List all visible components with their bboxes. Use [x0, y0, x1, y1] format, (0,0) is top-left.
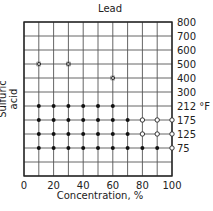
open-circle-marker [170, 118, 174, 122]
open-circle-marker [155, 118, 159, 122]
filled-circle-marker [96, 146, 100, 150]
filled-circle-marker [81, 146, 85, 150]
filled-circle-marker [96, 132, 100, 136]
filled-circle-marker [126, 132, 130, 136]
y-tick-label: 400 [177, 73, 196, 84]
filled-circle-marker [81, 104, 85, 108]
filled-circle-marker [37, 104, 41, 108]
filled-circle-marker [37, 132, 41, 136]
y-tick-label: 700 [177, 31, 196, 42]
x-tick-label: 0 [21, 180, 27, 191]
filled-circle-marker [81, 132, 85, 136]
y-tick-label: 125 [177, 129, 196, 140]
filled-circle-marker [140, 146, 144, 150]
open-circle-marker [140, 118, 144, 122]
open-circle-marker [155, 132, 159, 136]
filled-circle-marker [66, 104, 70, 108]
y-tick-label: 300 [177, 87, 196, 98]
cross-marker [36, 62, 41, 67]
filled-circle-marker [155, 146, 159, 150]
grid [24, 22, 172, 176]
cross-marker [66, 62, 71, 67]
cross-marker [110, 76, 115, 81]
filled-circle-marker [96, 104, 100, 108]
y-tick-label: 500 [177, 59, 196, 70]
filled-circle-marker [37, 146, 41, 150]
filled-circle-marker [111, 104, 115, 108]
open-circle-marker [170, 132, 174, 136]
y-tick-label: 175 [177, 115, 196, 126]
filled-circle-marker [111, 132, 115, 136]
y-tick-label: 600 [177, 45, 196, 56]
x-tick-label: 100 [162, 180, 181, 191]
filled-circle-marker [111, 118, 115, 122]
x-tick-label: 80 [136, 180, 149, 191]
filled-circle-marker [66, 132, 70, 136]
open-circle-marker [140, 132, 144, 136]
filled-circle-marker [111, 146, 115, 150]
filled-circle-marker [52, 118, 56, 122]
filled-circle-marker [52, 104, 56, 108]
y-tick-label: 212 °F [177, 101, 210, 112]
filled-circle-marker [126, 118, 130, 122]
x-tick-label: 20 [47, 180, 60, 191]
filled-circle-marker [81, 118, 85, 122]
y-tick-label: 800 [177, 17, 196, 28]
filled-circle-marker [37, 118, 41, 122]
filled-circle-marker [66, 146, 70, 150]
chart-plot: 800700600500400300212 °F1751257502040608… [0, 0, 213, 211]
y-tick-label: 75 [177, 143, 190, 154]
open-circle-marker [170, 146, 174, 150]
x-tick-label: 60 [106, 180, 119, 191]
filled-circle-marker [126, 146, 130, 150]
x-tick-label: 40 [77, 180, 90, 191]
filled-circle-marker [52, 146, 56, 150]
filled-circle-marker [66, 118, 70, 122]
filled-circle-marker [96, 118, 100, 122]
filled-circle-marker [52, 132, 56, 136]
